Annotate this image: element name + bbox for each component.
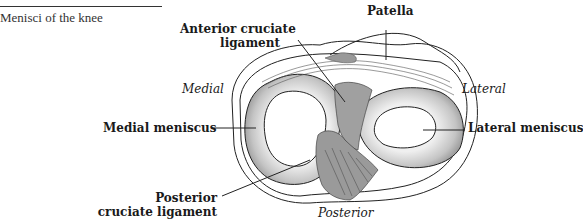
label-medial-meniscus: Medial meniscus: [103, 121, 217, 135]
label-acl-line1: Anterior cruciate: [180, 22, 280, 36]
label-lateral-meniscus: Lateral meniscus: [468, 121, 583, 135]
lateral-meniscus: [358, 88, 463, 168]
label-posterior-cruciate-ligament: Posterior cruciate ligament: [80, 191, 217, 219]
label-acl-line2: ligament: [180, 36, 280, 50]
label-pcl-line2: cruciate ligament: [80, 205, 217, 219]
label-posterior: Posterior: [318, 206, 373, 220]
label-pcl-line1: Posterior: [80, 191, 217, 205]
label-patella: Patella: [367, 4, 414, 18]
label-lateral: Lateral: [462, 82, 506, 96]
patella-outline: [330, 33, 460, 72]
label-medial: Medial: [182, 82, 224, 96]
label-anterior-cruciate-ligament: Anterior cruciate ligament: [180, 22, 280, 50]
